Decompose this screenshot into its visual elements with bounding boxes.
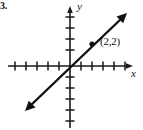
plotted-line [30,18,122,106]
point-marker-2-2 [89,41,94,46]
point-coordinate-label: (2,2) [100,36,120,47]
graph-figure: 3. [0,0,143,130]
plotted-line-group [25,13,127,111]
x-axis-label: x [131,68,136,79]
y-axis-label: y [77,1,82,12]
y-axis-arrowhead [67,6,73,13]
coordinate-plane-svg [0,0,143,130]
